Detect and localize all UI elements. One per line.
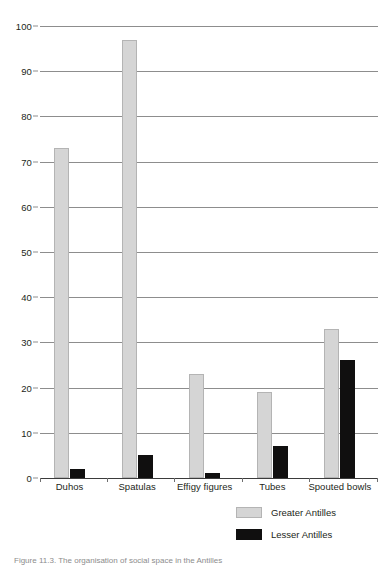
y-tick-label-80: 80 — [21, 111, 32, 122]
y-tick-label-20: 20 — [21, 382, 32, 393]
y-tick-dash-90 — [33, 71, 38, 72]
y-tick-dash-10 — [33, 432, 38, 433]
bar-series-container — [40, 26, 378, 478]
y-tick-label-50: 50 — [21, 247, 32, 258]
bar-lesser-antilles — [273, 446, 288, 478]
bar-greater-antilles — [257, 392, 272, 478]
y-tick-label-70: 70 — [21, 156, 32, 167]
x-tick-label: Tubes — [259, 481, 285, 492]
gridline-0 — [40, 478, 378, 479]
y-tick-dash-60 — [33, 206, 38, 207]
legend-item-lesser-antilles: Lesser Antilles — [236, 527, 376, 541]
y-tick-dash-100 — [33, 26, 38, 27]
y-tick-label-90: 90 — [21, 66, 32, 77]
y-tick-dash-30 — [33, 342, 38, 343]
chart-legend: Greater Antilles Lesser Antilles — [236, 505, 376, 549]
legend-label-lesser-antilles: Lesser Antilles — [271, 529, 332, 540]
y-tick-dash-70 — [33, 161, 38, 162]
y-tick-label-30: 30 — [21, 337, 32, 348]
bar-greater-antilles — [54, 148, 69, 478]
y-tick-dash-80 — [33, 116, 38, 117]
legend-item-greater-antilles: Greater Antilles — [236, 505, 376, 519]
bar-greater-antilles — [189, 374, 204, 478]
x-tick-label: Spatulas — [118, 481, 155, 492]
y-tick-dash-0 — [33, 478, 38, 479]
legend-label-greater-antilles: Greater Antilles — [271, 507, 336, 518]
bar-group — [243, 26, 311, 478]
x-axis-labels: DuhosSpatulasEffigy figuresTubesSpouted … — [40, 481, 378, 497]
y-tick-label-100: 100 — [16, 21, 32, 32]
y-tick-label-60: 60 — [21, 201, 32, 212]
bar-group — [108, 26, 176, 478]
y-tick-dash-20 — [33, 387, 38, 388]
bar-lesser-antilles — [70, 469, 85, 478]
bar-greater-antilles — [122, 40, 137, 478]
bar-group — [310, 26, 378, 478]
bar-group — [40, 26, 108, 478]
bar-lesser-antilles — [138, 455, 153, 478]
y-tick-dash-40 — [33, 297, 38, 298]
bar-group — [175, 26, 243, 478]
bar-lesser-antilles — [340, 360, 355, 478]
x-tick-label: Spouted bowls — [308, 481, 371, 492]
figure-container: 0102030405060708090100 DuhosSpatulasEffi… — [0, 0, 378, 566]
y-tick-label-0: 0 — [27, 473, 32, 484]
y-axis-labels: 0102030405060708090100 — [0, 26, 38, 478]
bar-lesser-antilles — [205, 473, 220, 478]
y-tick-label-40: 40 — [21, 292, 32, 303]
x-tick-label: Duhos — [56, 481, 84, 492]
legend-swatch-lesser-antilles — [236, 529, 262, 540]
y-tick-dash-50 — [33, 252, 38, 253]
bar-greater-antilles — [324, 329, 339, 478]
figure-caption: Figure 11.3. The organisation of social … — [14, 556, 366, 566]
x-tick-label: Effigy figures — [177, 481, 232, 492]
y-tick-label-10: 10 — [21, 427, 32, 438]
legend-swatch-greater-antilles — [236, 507, 262, 518]
plot-area — [40, 26, 378, 478]
